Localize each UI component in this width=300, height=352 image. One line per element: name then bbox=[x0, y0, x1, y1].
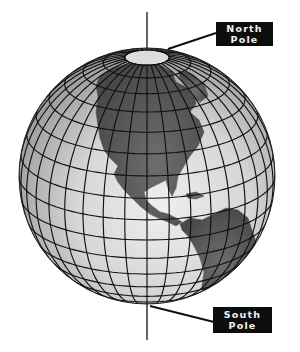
south-pole-leader-line bbox=[150, 306, 214, 322]
globe-illustration bbox=[0, 0, 300, 352]
south-pole-label-line2: Pole bbox=[215, 320, 270, 331]
south-pole-label-line1: South bbox=[215, 309, 270, 320]
north-pole-label-line2: Pole bbox=[218, 34, 271, 45]
north-pole-leader-line bbox=[168, 33, 216, 49]
south-pole-label: South Pole bbox=[213, 307, 272, 333]
globe-diagram: North Pole South Pole bbox=[0, 0, 300, 352]
north-pole-label-line1: North bbox=[218, 23, 271, 34]
north-pole-label: North Pole bbox=[216, 22, 273, 46]
